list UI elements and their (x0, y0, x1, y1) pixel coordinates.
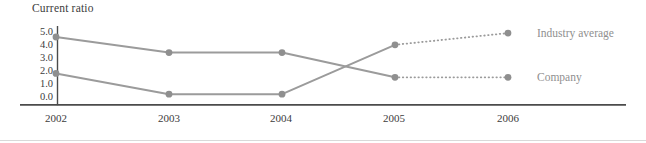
industry-average-series-label: Industry average (537, 26, 614, 40)
x-tick-label: 2003 (141, 111, 197, 125)
data-point-marker (166, 49, 173, 56)
data-point-marker (505, 30, 512, 37)
data-point-marker (53, 70, 60, 77)
data-point-marker (505, 74, 512, 81)
data-point-marker (166, 91, 173, 98)
data-point-marker (53, 34, 60, 41)
data-point-marker (279, 91, 286, 98)
series-projection-industry-average (395, 33, 508, 45)
figure-bottom-rule (0, 140, 646, 141)
x-tick-label: 2004 (253, 111, 309, 125)
x-tick-label: 2006 (480, 111, 536, 125)
current-ratio-chart: Current ratio 5.0 4.0 3.0 2.0 1.0 0.0 20… (0, 0, 646, 143)
company-series-label: Company (537, 70, 582, 84)
data-point-marker (392, 74, 399, 81)
data-point-marker (392, 41, 399, 48)
x-tick-label: 2002 (28, 111, 84, 125)
data-point-marker (279, 49, 286, 56)
series-line-company (56, 37, 395, 77)
x-tick-label: 2005 (366, 111, 422, 125)
